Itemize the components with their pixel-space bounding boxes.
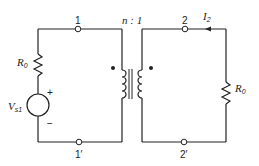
turns-ratio-label: n : 1: [122, 14, 142, 26]
source-resistor-label: R0: [16, 56, 28, 69]
node-2p-label: 2′: [180, 149, 188, 160]
circuit-diagram: 1 1′ 2 2′ n : 1 R0 Vs1 + − R0 I2: [0, 0, 259, 166]
voltage-source-label: Vs1: [8, 100, 22, 113]
node-1-label: 1: [75, 15, 81, 26]
load-resistor: [222, 82, 230, 104]
node-1p-label: 1′: [75, 149, 83, 160]
plus-sign: +: [47, 87, 53, 98]
source-resistor: [34, 54, 42, 76]
minus-sign: −: [47, 118, 53, 129]
node-1p-terminal: [76, 139, 82, 145]
node-2-label: 2: [182, 15, 188, 26]
transformer: [111, 66, 153, 99]
current-label: I2: [202, 10, 211, 23]
secondary-loop: [142, 27, 230, 143]
load-resistor-label: R0: [234, 82, 246, 95]
primary-coil: [122, 70, 126, 98]
primary-polarity-dot: [111, 66, 115, 70]
node-2p-terminal: [181, 139, 187, 145]
node-1-terminal: [75, 26, 81, 32]
primary-loop: [27, 29, 122, 142]
voltage-source: [27, 94, 49, 116]
secondary-polarity-dot: [149, 66, 153, 70]
current-arrow-icon: [205, 27, 211, 32]
secondary-coil: [138, 70, 142, 98]
node-2-terminal: [182, 26, 188, 32]
